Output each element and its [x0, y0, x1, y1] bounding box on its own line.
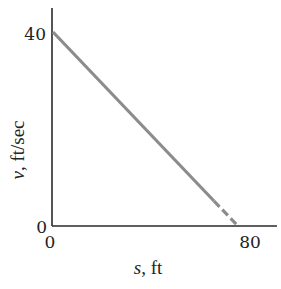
x-tick-80: 80	[239, 232, 261, 252]
y-tick-40: 40	[24, 24, 46, 44]
data-line-solid	[53, 32, 214, 201]
x-axis-var: s	[134, 257, 141, 278]
x-axis-label: s, ft	[134, 257, 163, 278]
y-axis-label: v, ft/sec	[7, 120, 28, 179]
x-axis-unit: , ft	[141, 257, 163, 278]
y-axis-unit: , ft/sec	[7, 120, 28, 171]
velocity-position-chart: 40 0 0 80 s, ft v, ft/sec	[0, 0, 281, 289]
x-tick-0: 0	[45, 232, 56, 252]
data-line-dashed	[214, 201, 238, 226]
